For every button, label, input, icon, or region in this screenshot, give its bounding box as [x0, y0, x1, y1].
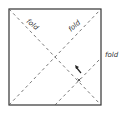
fold-label-3: fold — [105, 51, 119, 59]
x-mark-icon — [78, 79, 81, 82]
arrow-icon — [75, 65, 81, 73]
fold-diagram: fold fold fold — [0, 0, 129, 123]
fold-label-1: fold — [25, 17, 41, 32]
